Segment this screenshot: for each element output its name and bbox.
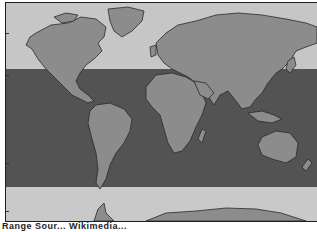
map-caption: Range Sour... Wikimedia... <box>2 221 127 231</box>
australia <box>258 131 298 163</box>
southeast-asia-islands <box>248 111 282 123</box>
axis-tick <box>6 163 9 164</box>
axis-tick <box>6 75 9 76</box>
south-america <box>88 103 132 189</box>
greenland <box>108 7 144 37</box>
british-isles <box>150 45 156 57</box>
axis-tick <box>6 33 9 34</box>
madagascar <box>198 129 206 143</box>
north-america <box>26 17 106 103</box>
antarctica <box>94 203 306 221</box>
axis-tick <box>6 211 9 212</box>
new-zealand <box>302 159 312 171</box>
continents <box>6 3 317 221</box>
world-map <box>5 2 317 222</box>
